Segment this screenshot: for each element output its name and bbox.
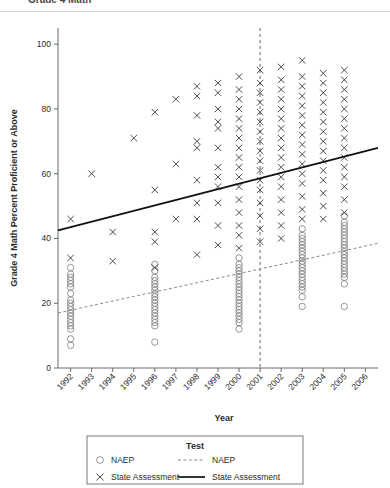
- data-point-state-assessment: [299, 122, 305, 128]
- data-point-state-assessment: [215, 106, 221, 112]
- x-tick-label: 1996: [139, 371, 160, 392]
- data-point-state-assessment: [236, 96, 242, 102]
- x-tick-label: 2004: [307, 371, 328, 392]
- chart-page: Grade 4 Math 020406080100 19921993199419…: [0, 0, 390, 488]
- legend-label-state-marker: State Assessment: [111, 472, 180, 482]
- data-point-state-assessment: [320, 138, 326, 144]
- legend-x-icon: [96, 474, 103, 481]
- data-point-state-assessment: [257, 213, 263, 219]
- x-tick-label: 2001: [244, 371, 265, 392]
- data-point-state-assessment: [341, 183, 347, 189]
- x-tick-label: 2003: [286, 371, 307, 392]
- data-point-state-assessment: [299, 73, 305, 79]
- data-point-naep: [152, 261, 158, 267]
- legend-label-naep-line: NAEP: [212, 455, 235, 465]
- x-tick-label: 1994: [97, 371, 118, 392]
- data-point-state-assessment: [257, 128, 263, 134]
- data-point-state-assessment: [299, 93, 305, 99]
- data-point-state-assessment: [257, 80, 263, 86]
- data-point-state-assessment: [152, 239, 158, 245]
- data-point-state-assessment: [131, 135, 137, 141]
- data-point-state-assessment: [278, 174, 284, 180]
- data-point-state-assessment: [173, 216, 179, 222]
- x-tick-label: 1995: [118, 371, 139, 392]
- data-point-state-assessment: [215, 222, 221, 228]
- data-point-state-assessment: [236, 73, 242, 79]
- x-tick-label: 2000: [223, 371, 244, 392]
- data-point-state-assessment: [236, 209, 242, 215]
- data-point-state-assessment: [215, 200, 221, 206]
- data-point-state-assessment: [194, 216, 200, 222]
- data-point-state-assessment: [341, 67, 347, 73]
- data-point-state-assessment: [299, 151, 305, 157]
- data-point-state-assessment: [278, 145, 284, 151]
- data-point-state-assessment: [299, 83, 305, 89]
- y-tick-label: 60: [42, 169, 52, 179]
- truncated-page-header: Grade 4 Math: [28, 0, 91, 5]
- data-point-naep: [67, 342, 73, 348]
- y-tick-label: 40: [42, 233, 52, 243]
- data-point-state-assessment: [320, 190, 326, 196]
- data-point-state-assessment: [278, 96, 284, 102]
- data-point-state-assessment: [278, 183, 284, 189]
- data-point-state-assessment: [215, 164, 221, 170]
- x-axis: 1992199319941995199619971998199920002001…: [55, 368, 378, 392]
- data-point-state-assessment: [215, 145, 221, 151]
- data-point-state-assessment: [236, 145, 242, 151]
- y-tick-label: 20: [42, 298, 52, 308]
- data-point-state-assessment: [299, 112, 305, 118]
- data-point-state-assessment: [236, 222, 242, 228]
- data-point-state-assessment: [278, 196, 284, 202]
- data-point-state-assessment: [215, 80, 221, 86]
- data-point-state-assessment: [320, 70, 326, 76]
- data-point-naep: [341, 281, 347, 287]
- data-point-state-assessment: [236, 106, 242, 112]
- y-tick-label: 0: [46, 363, 51, 373]
- data-point-state-assessment: [194, 145, 200, 151]
- data-point-state-assessment: [194, 138, 200, 144]
- data-point-state-assessment: [236, 232, 242, 238]
- x-tick-label: 1993: [76, 371, 97, 392]
- data-point-naep: [299, 226, 305, 232]
- y-tick-label: 80: [42, 104, 52, 114]
- data-point-state-assessment: [320, 109, 326, 115]
- x-tick-label: 2005: [328, 371, 349, 392]
- data-point-naep: [152, 339, 158, 345]
- data-point-state-assessment: [236, 164, 242, 170]
- data-point-naep: [236, 255, 242, 261]
- data-point-state-assessment: [299, 206, 305, 212]
- y-tick-label: 100: [37, 39, 51, 49]
- data-point-state-assessment: [236, 245, 242, 251]
- scatter-chart: 020406080100 199219931994199519961997199…: [0, 0, 390, 488]
- data-point-state-assessment: [299, 141, 305, 147]
- data-point-naep: [236, 326, 242, 332]
- data-point-naep: [67, 264, 73, 270]
- data-point-state-assessment: [278, 106, 284, 112]
- data-point-state-assessment: [257, 200, 263, 206]
- x-tick-label: 1992: [55, 371, 76, 392]
- data-point-state-assessment: [320, 167, 326, 173]
- data-point-state-assessment: [110, 258, 116, 264]
- data-point-state-assessment: [236, 135, 242, 141]
- legend-circle-icon: [97, 457, 104, 464]
- data-point-state-assessment: [236, 86, 242, 92]
- data-point-state-assessment: [341, 77, 347, 83]
- x-tick-label: 1997: [160, 371, 181, 392]
- data-point-state-assessment: [278, 154, 284, 160]
- data-point-state-assessment: [320, 90, 326, 96]
- data-point-state-assessment: [341, 209, 347, 215]
- data-point-state-assessment: [194, 83, 200, 89]
- data-point-state-assessment: [320, 80, 326, 86]
- data-point-state-assessment: [257, 158, 263, 164]
- data-point-state-assessment: [236, 154, 242, 160]
- data-point-state-assessment: [299, 132, 305, 138]
- data-point-state-assessment: [341, 115, 347, 121]
- x-tick-label: 1998: [181, 371, 202, 392]
- data-point-state-assessment: [194, 251, 200, 257]
- data-point-state-assessment: [278, 115, 284, 121]
- data-point-state-assessment: [173, 161, 179, 167]
- data-point-state-assessment: [236, 174, 242, 180]
- data-point-state-assessment: [67, 255, 73, 261]
- x-axis-title: Year: [214, 413, 234, 423]
- data-point-state-assessment: [194, 200, 200, 206]
